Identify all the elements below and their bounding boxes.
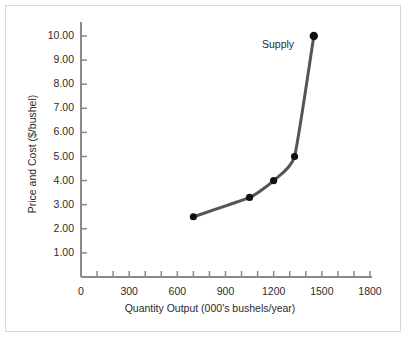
y-tick-label: 3.00 bbox=[28, 198, 74, 210]
data-point-marker bbox=[270, 177, 277, 184]
x-tick-label: 1500 bbox=[297, 285, 347, 297]
x-tick-label: 0 bbox=[56, 285, 106, 297]
x-tick-label: 1800 bbox=[345, 285, 395, 297]
data-point-marker bbox=[246, 194, 253, 201]
x-tick-label: 1200 bbox=[249, 285, 299, 297]
data-point-marker bbox=[310, 32, 318, 40]
x-axis-title: Quantity Output (000's bushels/year) bbox=[60, 302, 360, 314]
y-tick-label: 8.00 bbox=[28, 77, 74, 89]
x-tick-label: 600 bbox=[152, 285, 202, 297]
x-tick-label: 300 bbox=[104, 285, 154, 297]
y-tick-label: 1.00 bbox=[28, 246, 74, 258]
y-tick-label: 7.00 bbox=[28, 101, 74, 113]
axes-group bbox=[81, 22, 372, 277]
y-tick-label: 10.00 bbox=[28, 29, 74, 41]
y-tick-label: 2.00 bbox=[28, 222, 74, 234]
y-tick-label: 6.00 bbox=[28, 125, 74, 137]
y-tick-label: 4.00 bbox=[28, 174, 74, 186]
supply-series-annotation: Supply bbox=[262, 38, 294, 50]
data-point-marker bbox=[291, 153, 298, 160]
supply-curve-line bbox=[193, 36, 313, 217]
supply-curve-chart: Price and Cost ($/bushel) Quantity Outpu… bbox=[0, 0, 407, 338]
y-tick-label: 5.00 bbox=[28, 150, 74, 162]
series-group bbox=[190, 32, 318, 221]
y-tick-label: 9.00 bbox=[28, 53, 74, 65]
x-tick-label: 900 bbox=[201, 285, 251, 297]
data-point-marker bbox=[190, 213, 197, 220]
